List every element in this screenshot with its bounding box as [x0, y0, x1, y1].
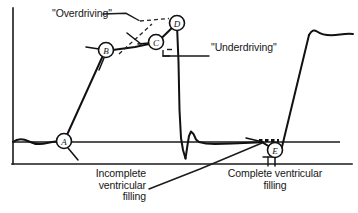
trace-notch-recovery [186, 132, 263, 159]
trace-upstroke-e [281, 35, 309, 151]
underdriving-bracket [163, 50, 170, 56]
marker-b-label: B [103, 46, 109, 56]
marker-e[interactable]: E [268, 143, 283, 158]
marker-a[interactable]: A [57, 134, 72, 149]
figure-root: A B C D E "Overdriving" "Underdriving" I… [0, 0, 358, 213]
marker-c-label: C [153, 38, 160, 48]
marker-b-tail-left [86, 47, 99, 49]
marker-e-label: E [271, 146, 278, 156]
marker-d[interactable]: D [170, 16, 185, 31]
marker-d-label: D [173, 19, 181, 29]
complete-filling-label: Complete ventricular filling [215, 168, 335, 191]
underdriving-label: "Underdriving" [211, 42, 277, 54]
trace-downstroke-d [177, 25, 186, 159]
marker-a-label: A [60, 137, 67, 147]
marker-c[interactable]: C [149, 35, 164, 50]
marker-a-tail [68, 148, 78, 160]
overdriving-dashed-upper [140, 19, 169, 22]
incomplete-filling-label: Incomplete ventricular filling [78, 168, 146, 203]
marker-b[interactable]: B [99, 43, 114, 58]
overdriving-cross-stroke [127, 33, 141, 44]
trace-upstroke-a-to-b [64, 51, 105, 142]
trace-right-plateau [309, 30, 353, 35]
overdriving-label: "Overdriving" [52, 8, 112, 20]
